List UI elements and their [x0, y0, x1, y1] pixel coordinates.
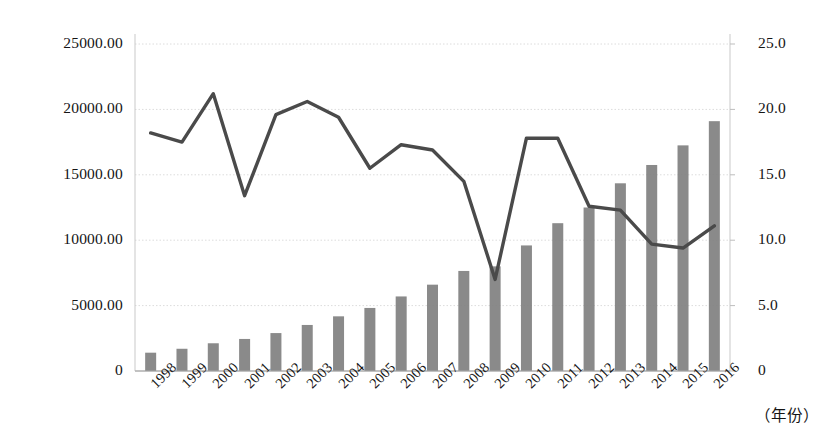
bar — [646, 165, 657, 371]
bar — [521, 245, 532, 371]
y-axis-left-tick-label: 15000.00 — [8, 165, 123, 183]
y-axis-right-tick-label: 20.0 — [758, 99, 786, 117]
y-axis-right-tick-label: 25.0 — [758, 34, 786, 52]
bar — [239, 339, 250, 371]
bar — [208, 343, 219, 371]
chart-container: 05000.0010000.0015000.0020000.0025000.00… — [0, 0, 840, 446]
bar — [552, 223, 563, 371]
y-axis-right-tick-label: 10.0 — [758, 230, 786, 248]
y-axis-right-tick-label: 5.0 — [758, 296, 778, 314]
bar — [302, 325, 313, 371]
bar — [427, 285, 438, 371]
bar — [176, 349, 187, 371]
bar — [584, 208, 595, 372]
bar — [678, 145, 689, 371]
bar — [458, 271, 469, 371]
bar — [364, 308, 375, 371]
bar — [145, 353, 156, 371]
data-line — [151, 94, 715, 280]
y-axis-left-tick-label: 10000.00 — [8, 230, 123, 248]
bar — [490, 266, 501, 371]
x-axis-title: （年份） — [755, 403, 819, 425]
bar — [396, 296, 407, 371]
bar — [270, 333, 281, 371]
y-axis-left-tick-label: 20000.00 — [8, 99, 123, 117]
y-axis-right-tick-label: 15.0 — [758, 165, 786, 183]
bar — [709, 121, 720, 371]
y-axis-right-tick-label: 0 — [758, 361, 766, 379]
y-axis-left-tick-label: 5000.00 — [8, 296, 123, 314]
y-axis-left-tick-label: 0 — [8, 361, 123, 379]
bar — [333, 316, 344, 371]
y-axis-left-tick-label: 25000.00 — [8, 34, 123, 52]
